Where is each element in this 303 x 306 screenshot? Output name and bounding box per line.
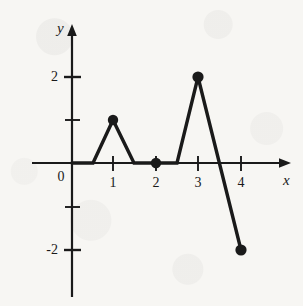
x-tick-label-3: 3: [190, 176, 206, 190]
data-point-marker: [235, 244, 246, 255]
x-axis-label: x: [283, 173, 290, 188]
x-tick-label-4: 4: [233, 176, 249, 190]
piecewise-linear-graph: [0, 0, 303, 306]
y-tick-label-minus-2: -2: [32, 243, 58, 257]
figure-canvas: y x 0 1 2 3 4 2 -2: [0, 0, 303, 306]
data-point-marker: [192, 71, 203, 82]
data-point-marker: [151, 158, 161, 168]
x-axis-arrowhead: [279, 158, 291, 168]
data-point-marker: [108, 115, 118, 125]
y-axis-label: y: [57, 21, 64, 36]
x-tick-label-2: 2: [148, 176, 164, 190]
origin-label: 0: [53, 170, 69, 184]
x-tick-label-1: 1: [105, 176, 121, 190]
y-axis-arrowhead: [67, 24, 77, 36]
y-tick-label-2: 2: [40, 70, 58, 84]
